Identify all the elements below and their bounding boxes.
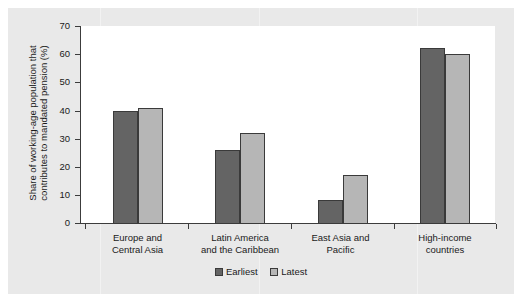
x-tick-label-east-asia-and-pacific: East Asia and Pacific (288, 232, 393, 256)
bar-earliest-high-income-countries (420, 48, 445, 224)
bar-earliest-europe-and-central-asia (113, 111, 138, 224)
bar-earliest-latin-america-and-the-caribbean (215, 150, 240, 224)
x-tick-label-line-2: Pacific (288, 244, 393, 256)
x-tick-mark (496, 224, 497, 229)
x-tick-mark (85, 224, 86, 229)
y-tick-label: 70 (59, 21, 70, 31)
bar-latest-europe-and-central-asia (138, 108, 163, 224)
y-tick-mark (75, 26, 80, 27)
y-tick-mark (75, 167, 80, 168)
x-tick-label-line-1: High-income (395, 232, 495, 244)
y-tick-label: 0 (65, 218, 70, 228)
x-tick-label-line-2: and the Caribbean (175, 244, 305, 256)
y-axis-title: Share of working-age population that con… (27, 23, 49, 223)
bar-latest-latin-america-and-the-caribbean (240, 133, 265, 224)
legend-label-earliest: Earliest (226, 266, 258, 277)
legend-entry-earliest: Earliest (215, 266, 258, 277)
y-tick-label: 50 (59, 77, 70, 87)
y-tick-mark (75, 54, 80, 55)
legend-label-latest: Latest (281, 266, 307, 277)
y-axis-line (80, 26, 81, 224)
y-tick-mark (75, 82, 80, 83)
x-tick-label-line-1: East Asia and (288, 232, 393, 244)
chart-figure: 70 60 50 40 30 20 10 0 Share of working-… (0, 0, 522, 302)
y-tick-mark (75, 195, 80, 196)
legend-swatch-latest-icon (270, 268, 278, 276)
x-tick-mark (188, 224, 189, 229)
bar-latest-east-asia-and-pacific (343, 175, 368, 224)
x-tick-label-latin-america-and-the-caribbean: Latin America and the Caribbean (175, 232, 305, 256)
y-tick-label: 60 (59, 49, 70, 59)
legend-entry-latest: Latest (270, 266, 307, 277)
chart-legend: Earliest Latest (0, 266, 522, 277)
legend-swatch-earliest-icon (215, 268, 223, 276)
y-tick-label: 10 (59, 190, 70, 200)
x-tick-label-high-income-countries: High-income countries (395, 232, 495, 256)
y-tick-label: 20 (59, 162, 70, 172)
y-tick-mark (75, 223, 80, 224)
bar-latest-high-income-countries (445, 54, 470, 224)
y-tick-mark (75, 139, 80, 140)
x-tick-label-line-2: countries (395, 244, 495, 256)
x-tick-mark (291, 224, 292, 229)
y-axis-title-line-1: Share of working-age population that (27, 23, 38, 223)
y-tick-mark (75, 111, 80, 112)
y-tick-label: 40 (59, 106, 70, 116)
x-tick-mark (394, 224, 395, 229)
bar-earliest-east-asia-and-pacific (318, 200, 343, 224)
x-tick-label-line-1: Latin America (175, 232, 305, 244)
y-tick-label: 30 (59, 134, 70, 144)
y-axis-title-line-2: contributes to mandated pension (%) (38, 23, 49, 223)
